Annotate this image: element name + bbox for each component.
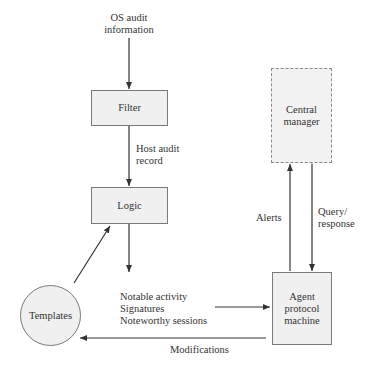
ids-architecture-diagram: OS audit information Filter Host audit r… (0, 0, 371, 365)
alerts-label: Alerts (256, 212, 282, 224)
arrow-templates-to-logic (74, 226, 110, 283)
notable-line3: Noteworthy sessions (120, 315, 207, 327)
central-manager-line2: manager (283, 116, 319, 128)
os-audit-line2: information (94, 24, 164, 36)
logic-label: Logic (117, 200, 142, 212)
agent-protocol-machine-node: Agent protocol machine (272, 272, 332, 345)
notable-activity-label: Notable activity Signatures Noteworthy s… (120, 291, 207, 327)
os-audit-label: OS audit information (94, 12, 164, 36)
os-audit-line1: OS audit (94, 12, 164, 24)
central-manager-node: Central manager (271, 68, 332, 163)
notable-line1: Notable activity (120, 291, 207, 303)
query-line1: Query/ (318, 206, 355, 218)
query-response-label: Query/ response (318, 206, 355, 230)
filter-node: Filter (91, 90, 168, 126)
host-audit-label: Host audit record (136, 143, 179, 167)
host-audit-line2: record (136, 155, 179, 167)
query-line2: response (318, 218, 355, 230)
templates-node: Templates (20, 285, 81, 346)
templates-label: Templates (29, 310, 72, 322)
host-audit-line1: Host audit (136, 143, 179, 155)
agent-line1: Agent (284, 291, 320, 303)
central-manager-line1: Central (283, 104, 319, 116)
logic-node: Logic (91, 187, 168, 224)
agent-line2: protocol (284, 303, 320, 315)
modifications-label: Modifications (170, 344, 229, 356)
filter-label: Filter (118, 102, 141, 114)
agent-line3: machine (284, 315, 320, 327)
notable-line2: Signatures (120, 303, 207, 315)
